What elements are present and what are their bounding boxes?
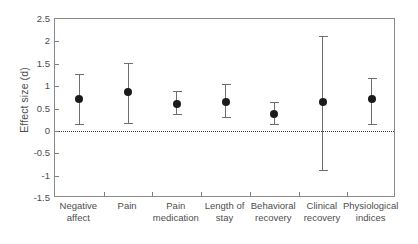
x-category-label-line2: recovery: [304, 212, 340, 224]
y-tick-mark: [55, 153, 59, 154]
y-tick-label: 1: [45, 81, 55, 91]
y-tick-label: -0.5: [34, 148, 55, 158]
x-category-label: Pain: [118, 200, 137, 212]
x-category-label-line1: Physiological: [343, 200, 398, 212]
error-bar-cap-lower: [124, 123, 133, 124]
x-category-label-line2: indices: [343, 212, 398, 224]
error-bar-cap-lower: [222, 117, 231, 118]
error-bar-cap-upper: [319, 36, 328, 37]
y-tick-mark: [55, 41, 59, 42]
y-tick-label: -1.5: [34, 193, 55, 203]
x-tick-mark: [152, 192, 153, 196]
error-bar-cap-upper: [173, 91, 182, 92]
x-category-label-line1: Behavioral: [251, 200, 296, 212]
error-bar-cap-lower: [368, 124, 377, 125]
y-tick-label: 0.5: [37, 104, 55, 114]
x-category-label-line1: Clinical: [304, 200, 340, 212]
data-point-marker: [368, 95, 376, 103]
data-point-marker: [222, 98, 230, 106]
data-point-marker: [173, 100, 181, 108]
x-category-label-line1: Length of: [205, 200, 245, 212]
zero-reference-line: [55, 131, 394, 132]
error-bar-cap-lower: [270, 124, 279, 125]
data-point-marker: [124, 88, 132, 96]
x-category-label-line1: Negative: [60, 200, 98, 212]
data-point-marker: [270, 110, 278, 118]
error-bar-cap-upper: [124, 63, 133, 64]
error-bar-cap-lower: [75, 124, 84, 125]
x-category-label-line1: Pain: [153, 200, 199, 212]
y-tick-mark: [55, 176, 59, 177]
x-axis-labels: NegativeaffectPainPainmedicationLength o…: [54, 200, 395, 242]
x-tick-mark: [299, 192, 300, 196]
x-category-label-line1: Pain: [118, 200, 137, 212]
x-tick-mark: [201, 192, 202, 196]
data-point-marker: [319, 98, 327, 106]
y-axis-title: Effect size (d): [16, 0, 32, 200]
x-category-label: Painmedication: [153, 200, 199, 224]
error-bar-cap-lower: [173, 114, 182, 115]
y-tick-label: 2: [45, 36, 55, 46]
x-tick-mark: [250, 192, 251, 196]
x-tick-mark: [104, 192, 105, 196]
error-bar-cap-lower: [319, 170, 328, 171]
error-bar-cap-upper: [368, 78, 377, 79]
x-category-label: Behavioralrecovery: [251, 200, 296, 224]
error-bar-cap-upper: [270, 102, 279, 103]
y-tick-mark: [55, 86, 59, 87]
x-category-label: Length ofstay: [205, 200, 245, 224]
y-tick-mark: [55, 109, 59, 110]
y-tick-label: 1.5: [37, 59, 55, 69]
error-bar-cap-upper: [75, 74, 84, 75]
data-point-marker: [75, 95, 83, 103]
x-tick-mark: [347, 192, 348, 196]
x-category-label: Clinicalrecovery: [304, 200, 340, 224]
x-category-label-line2: affect: [60, 212, 98, 224]
x-category-label-line2: stay: [205, 212, 245, 224]
error-bar-cap-upper: [222, 84, 231, 85]
effect-size-chart: Effect size (d) 2.521.510.50-0.5-1-1.5 N…: [0, 0, 418, 244]
y-tick-label: 0: [45, 126, 55, 136]
y-tick-label: 2.5: [37, 14, 55, 24]
x-category-label-line2: recovery: [251, 212, 296, 224]
plot-area: 2.521.510.50-0.5-1-1.5: [54, 18, 395, 197]
y-tick-mark: [55, 131, 59, 132]
y-tick-label: -1: [42, 171, 55, 181]
y-tick-mark: [55, 64, 59, 65]
x-category-label: Physiologicalindices: [343, 200, 398, 224]
x-category-label-line2: medication: [153, 212, 199, 224]
x-category-label: Negativeaffect: [60, 200, 98, 224]
